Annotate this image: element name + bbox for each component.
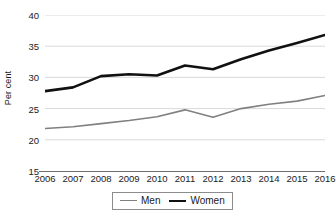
- x-tick-label: 2016: [314, 173, 335, 184]
- x-tick-label: 2010: [146, 173, 167, 184]
- series-line-men: [45, 96, 325, 129]
- chart-legend: Men Women: [112, 192, 233, 210]
- y-tick-label: 25: [28, 103, 39, 114]
- x-tick-label: 2007: [62, 173, 83, 184]
- x-tick-label: 2012: [202, 173, 223, 184]
- x-axis-line: [39, 171, 325, 172]
- legend-entry-women[interactable]: Women: [169, 195, 224, 206]
- legend-label-men: Men: [141, 195, 160, 206]
- x-tick-label: 2009: [118, 173, 139, 184]
- x-tick-label: 2008: [90, 173, 111, 184]
- y-tick-label: 35: [28, 41, 39, 52]
- y-axis-title: Per cent: [0, 0, 16, 175]
- plot-area: [45, 15, 325, 171]
- y-tick-label: 40: [28, 10, 39, 21]
- x-tick-label: 2011: [175, 173, 195, 184]
- x-tick-label: 2015: [286, 173, 307, 184]
- y-axis-title-text: Per cent: [3, 70, 13, 104]
- x-axis-tick-labels: 2006200720082009201020112012201320142015…: [45, 173, 325, 189]
- legend-label-women: Women: [190, 195, 224, 206]
- legend-swatch-men-icon: [120, 200, 137, 201]
- x-tick-label: 2014: [258, 173, 279, 184]
- y-tick-label: 20: [28, 134, 39, 145]
- x-tick-label: 2013: [230, 173, 251, 184]
- legend-swatch-women-icon: [169, 200, 186, 202]
- legend-entry-men[interactable]: Men: [120, 195, 160, 206]
- y-tick-label: 30: [28, 72, 39, 83]
- y-axis-tick-labels: 152025303540: [16, 0, 42, 180]
- series-line-women: [45, 35, 325, 91]
- plot-svg: [45, 15, 325, 171]
- x-tick-label: 2006: [34, 173, 55, 184]
